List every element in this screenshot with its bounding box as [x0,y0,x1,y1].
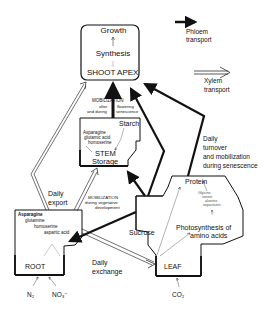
leaf-label: LEAF [164,263,182,270]
mobilization-top-title: MOBILIZATION [92,99,123,104]
root-label: ROOT [25,263,45,270]
sucrose-to-stem-phloem-arrow [128,172,145,196]
mobilization-top-right-2: senescence [116,110,138,114]
storage-label: Storage [92,158,118,166]
no3-label: NO₃⁻ [52,292,68,299]
co2-input-arrow [177,278,179,287]
daily-turnover-line4: during senescence [203,163,258,170]
root-aa-3: homoserine [34,225,58,230]
daily-exchange-line1: Daily [92,259,108,266]
n2-label: N₂ [27,292,34,299]
legend-phloem-label-2: transport [186,37,212,44]
daily-export-label-1: Daily [48,190,64,197]
shoot-apex-label: SHOOT APEX [87,69,138,77]
leaf-aa-4: aspartates [203,204,221,208]
mobilization-top-left-2: and during [87,110,107,114]
protein-label: Protein [185,178,207,185]
legend-xylem-label-1: Xylem [204,78,222,85]
starch-conversion-arrow [115,128,124,150]
leaf-to-aa-arrow [160,233,190,256]
root-aa-2: glutamine [25,219,45,224]
sucrose-label: Sucrose [129,229,155,236]
daily-export-label-2: export [48,199,67,206]
photosynthesis-label-1: Photosynthesis of [176,224,231,231]
mobilization-mid-line3: development [95,206,120,210]
synthesis-label: Synthesis [90,50,136,58]
daily-turnover-line3: and mobilization [203,154,250,161]
leaf-to-protein-arrow [157,187,180,255]
daily-turnover-line2: turnover [203,145,227,152]
n2-input-arrow [33,277,38,286]
growth-label: Growth [96,27,131,35]
daily-turnover-line1: Daily [203,136,217,143]
legend-xylem-label-2: transport [204,87,230,94]
stem-aa-3: homoserine [88,141,112,146]
no3-input-arrow [49,277,56,286]
root-aa-1: Asparagine [18,213,43,218]
sucrose-to-root-phloem-arrow [70,212,136,241]
legend-phloem-label-1: Phloem [186,29,208,36]
photosynthesis-label-2: amino acids [190,232,227,239]
root-aa-4: aspartic acid [44,231,69,236]
daily-exchange-line2: exchange [92,268,122,275]
co2-label: CO₂ [172,292,184,299]
starch-label: Starch [119,120,139,127]
